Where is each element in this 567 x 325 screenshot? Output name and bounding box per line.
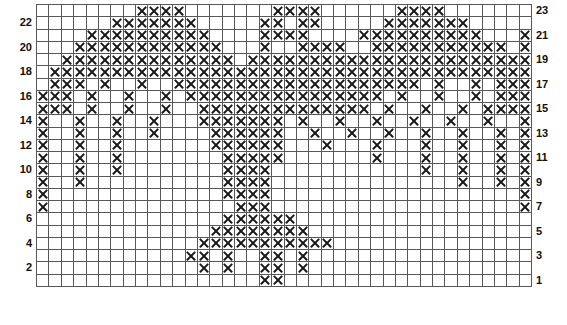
stitch-cell-marked[interactable]: X <box>86 29 98 41</box>
stitch-cell-marked[interactable]: X <box>321 90 333 102</box>
stitch-cell-marked[interactable]: X <box>259 78 271 90</box>
stitch-cell-empty[interactable] <box>383 90 395 102</box>
stitch-cell-empty[interactable] <box>61 29 73 41</box>
stitch-cell-empty[interactable] <box>123 274 135 286</box>
stitch-cell-marked[interactable]: X <box>408 41 420 53</box>
stitch-cell-marked[interactable]: X <box>37 127 49 139</box>
stitch-cell-marked[interactable]: X <box>148 54 160 66</box>
stitch-cell-empty[interactable] <box>420 250 432 262</box>
stitch-cell-marked[interactable]: X <box>433 17 445 29</box>
stitch-cell-marked[interactable]: X <box>445 115 457 127</box>
stitch-cell-marked[interactable]: X <box>235 139 247 151</box>
stitch-cell-marked[interactable]: X <box>272 78 284 90</box>
stitch-cell-empty[interactable] <box>445 5 457 17</box>
stitch-cell-empty[interactable] <box>395 164 407 176</box>
stitch-cell-empty[interactable] <box>321 225 333 237</box>
stitch-cell-empty[interactable] <box>433 213 445 225</box>
stitch-cell-marked[interactable]: X <box>86 90 98 102</box>
stitch-cell-empty[interactable] <box>173 201 185 213</box>
stitch-cell-marked[interactable]: X <box>111 17 123 29</box>
stitch-cell-marked[interactable]: X <box>148 127 160 139</box>
stitch-cell-marked[interactable]: X <box>470 90 482 102</box>
stitch-cell-marked[interactable]: X <box>470 78 482 90</box>
stitch-cell-marked[interactable]: X <box>98 29 110 41</box>
stitch-cell-empty[interactable] <box>457 188 469 200</box>
stitch-cell-empty[interactable] <box>98 5 110 17</box>
stitch-cell-empty[interactable] <box>272 201 284 213</box>
stitch-cell-marked[interactable]: X <box>148 29 160 41</box>
stitch-cell-marked[interactable]: X <box>296 78 308 90</box>
stitch-cell-empty[interactable] <box>173 250 185 262</box>
stitch-cell-marked[interactable]: X <box>259 66 271 78</box>
stitch-cell-marked[interactable]: X <box>259 262 271 274</box>
stitch-cell-marked[interactable]: X <box>272 127 284 139</box>
stitch-cell-empty[interactable] <box>148 78 160 90</box>
stitch-cell-marked[interactable]: X <box>507 78 519 90</box>
stitch-cell-empty[interactable] <box>160 115 172 127</box>
stitch-cell-empty[interactable] <box>482 225 494 237</box>
stitch-cell-empty[interactable] <box>247 5 259 17</box>
stitch-cell-empty[interactable] <box>358 213 370 225</box>
stitch-cell-empty[interactable] <box>482 201 494 213</box>
stitch-cell-empty[interactable] <box>358 127 370 139</box>
stitch-cell-empty[interactable] <box>210 188 222 200</box>
stitch-cell-empty[interactable] <box>235 41 247 53</box>
stitch-cell-empty[interactable] <box>160 164 172 176</box>
stitch-cell-marked[interactable]: X <box>259 41 271 53</box>
stitch-cell-empty[interactable] <box>321 274 333 286</box>
stitch-cell-marked[interactable]: X <box>507 66 519 78</box>
stitch-cell-marked[interactable]: X <box>210 139 222 151</box>
stitch-cell-empty[interactable] <box>49 139 61 151</box>
stitch-cell-empty[interactable] <box>321 250 333 262</box>
stitch-cell-marked[interactable]: X <box>346 90 358 102</box>
stitch-cell-empty[interactable] <box>519 250 531 262</box>
stitch-cell-empty[interactable] <box>358 164 370 176</box>
stitch-cell-marked[interactable]: X <box>371 41 383 53</box>
stitch-cell-empty[interactable] <box>296 152 308 164</box>
stitch-cell-marked[interactable]: X <box>259 90 271 102</box>
stitch-cell-empty[interactable] <box>123 188 135 200</box>
stitch-cell-marked[interactable]: X <box>136 78 148 90</box>
stitch-cell-empty[interactable] <box>111 5 123 17</box>
stitch-cell-empty[interactable] <box>272 164 284 176</box>
stitch-cell-marked[interactable]: X <box>222 188 234 200</box>
stitch-cell-marked[interactable]: X <box>494 78 506 90</box>
stitch-cell-empty[interactable] <box>284 262 296 274</box>
stitch-cell-empty[interactable] <box>358 188 370 200</box>
stitch-cell-empty[interactable] <box>61 188 73 200</box>
stitch-cell-empty[interactable] <box>49 176 61 188</box>
stitch-cell-empty[interactable] <box>98 127 110 139</box>
stitch-cell-empty[interactable] <box>358 41 370 53</box>
stitch-cell-marked[interactable]: X <box>197 66 209 78</box>
stitch-cell-empty[interactable] <box>247 274 259 286</box>
stitch-cell-empty[interactable] <box>334 29 346 41</box>
stitch-cell-marked[interactable]: X <box>272 213 284 225</box>
stitch-cell-marked[interactable]: X <box>259 237 271 249</box>
stitch-cell-empty[interactable] <box>123 5 135 17</box>
stitch-cell-marked[interactable]: X <box>247 139 259 151</box>
stitch-cell-empty[interactable] <box>173 274 185 286</box>
stitch-cell-marked[interactable]: X <box>197 54 209 66</box>
stitch-cell-marked[interactable]: X <box>210 54 222 66</box>
stitch-cell-marked[interactable]: X <box>123 54 135 66</box>
stitch-cell-marked[interactable]: X <box>395 41 407 53</box>
stitch-cell-empty[interactable] <box>470 5 482 17</box>
stitch-cell-empty[interactable] <box>346 188 358 200</box>
stitch-cell-empty[interactable] <box>160 201 172 213</box>
stitch-cell-empty[interactable] <box>457 213 469 225</box>
stitch-cell-marked[interactable]: X <box>247 225 259 237</box>
stitch-cell-marked[interactable]: X <box>123 103 135 115</box>
stitch-cell-marked[interactable]: X <box>37 139 49 151</box>
stitch-cell-empty[interactable] <box>395 237 407 249</box>
stitch-cell-marked[interactable]: X <box>148 17 160 29</box>
stitch-cell-marked[interactable]: X <box>358 29 370 41</box>
stitch-cell-marked[interactable]: X <box>519 152 531 164</box>
stitch-cell-marked[interactable]: X <box>334 115 346 127</box>
stitch-cell-empty[interactable] <box>222 41 234 53</box>
stitch-cell-marked[interactable]: X <box>383 78 395 90</box>
stitch-cell-empty[interactable] <box>482 152 494 164</box>
stitch-cell-empty[interactable] <box>37 78 49 90</box>
stitch-cell-marked[interactable]: X <box>247 213 259 225</box>
stitch-cell-empty[interactable] <box>185 5 197 17</box>
stitch-cell-marked[interactable]: X <box>309 127 321 139</box>
